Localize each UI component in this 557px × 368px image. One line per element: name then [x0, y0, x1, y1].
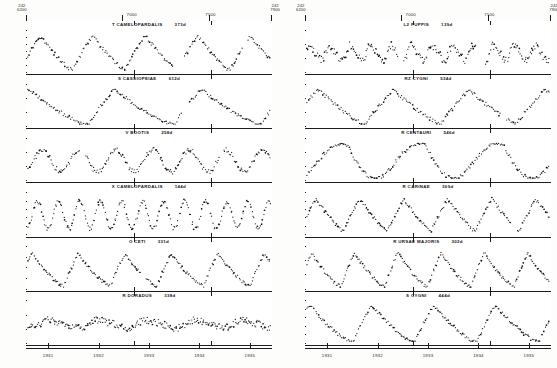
star-period: 309d	[442, 184, 453, 189]
panel-star-label: R DORADUS338d	[122, 293, 175, 298]
vertical-grid-tick-top	[490, 75, 491, 79]
vertical-grid-tick-top	[413, 238, 414, 242]
vertical-grid-tick-bottom	[134, 70, 135, 74]
vertical-grid-tick-bottom	[490, 178, 491, 182]
vertical-grid-tick-top	[211, 292, 212, 296]
scatter-plot-area	[305, 183, 551, 237]
jd-start-label-right: 242 6200	[296, 4, 306, 13]
vertical-grid-tick-bottom	[490, 233, 491, 237]
vertical-grid-tick-bottom	[134, 287, 135, 291]
light-curve-panel-t-camelopardalis: T CAMELOPARDALIS373d78910111213	[26, 21, 272, 75]
scatter-plot-area	[305, 292, 551, 346]
y-axis-tick-mark	[26, 51, 27, 52]
star-period: 331d	[158, 239, 169, 244]
year-tick-label: 1934	[473, 353, 484, 358]
star-period: 302d	[451, 239, 462, 244]
top-tick-label-7000-right: 7000	[406, 12, 416, 17]
star-period: 144d	[175, 184, 186, 189]
y-axis-tick-mark	[305, 30, 306, 31]
vertical-grid-tick-top	[134, 292, 135, 296]
light-curve-panel-r-carinae: R CARINAE309d456789	[305, 183, 551, 237]
vertical-grid-tick-top	[211, 183, 212, 187]
light-curve-panel-v-bootis: V BOOTIS258d78910	[26, 129, 272, 183]
bottom-axis-tick-mark	[149, 343, 150, 349]
light-curve-panel-r-centauri: R CENTAURI546d57911	[305, 129, 551, 183]
vertical-grid-tick-top	[134, 75, 135, 79]
top-tick-label-7000-left: 7000	[127, 12, 137, 17]
scatter-plot-area	[26, 21, 272, 75]
y-axis-tick-mark	[26, 329, 27, 330]
vertical-grid-tick-bottom	[134, 233, 135, 237]
scatter-plot-area	[26, 183, 272, 237]
vertical-grid-tick-top	[490, 21, 491, 25]
y-axis-tick-mark	[26, 289, 27, 290]
y-axis-tick-mark	[26, 72, 27, 73]
star-period: 338d	[164, 293, 175, 298]
star-name: S CYGNI	[406, 293, 427, 298]
y-axis-tick-mark	[305, 260, 306, 261]
scatter-plot-area	[26, 75, 272, 129]
panel-star-label: X CAMELOPARDALIS144d	[112, 184, 186, 189]
bottom-axis-right: 19311932193319341935	[305, 348, 551, 364]
y-axis-tick-mark	[26, 37, 27, 38]
y-axis-tick-mark	[26, 246, 27, 247]
vertical-grid-tick-bottom	[413, 287, 414, 291]
vertical-grid-tick-top	[490, 129, 491, 133]
year-tick-label: 1932	[93, 353, 104, 358]
vertical-grid-tick-bottom	[134, 341, 135, 345]
y-axis-tick-mark	[305, 152, 306, 153]
bottom-axis-tick-mark	[48, 343, 49, 349]
y-axis-tick-mark	[26, 217, 27, 218]
vertical-grid-tick-bottom	[211, 70, 212, 74]
star-name: L2 PUPPIS	[403, 22, 429, 27]
y-axis-tick-mark	[305, 84, 306, 85]
y-axis-tick-mark	[305, 334, 306, 335]
y-axis-tick-mark	[26, 65, 27, 66]
y-axis-tick-mark	[26, 166, 27, 167]
y-axis-tick-mark	[26, 278, 27, 279]
bottom-axis-tick-mark	[250, 343, 251, 349]
star-name: V BOOTIS	[125, 130, 149, 135]
light-curve-panel-l2-puppis: L2 PUPPIS139d3456	[305, 21, 551, 75]
y-axis-tick-mark	[305, 300, 306, 301]
light-curve-panel-s-cygni: S CYGNI444d91011121314	[305, 292, 551, 346]
bottom-axis-tick-mark	[99, 343, 100, 349]
y-axis-tick-mark	[305, 44, 306, 45]
jd-start-value-left: 6200	[17, 7, 27, 12]
panel-star-label: R CENTAURI546d	[401, 130, 455, 135]
bottom-axis-tick-mark	[529, 343, 530, 349]
scatter-plot-area	[26, 129, 272, 183]
vertical-grid-tick-top	[134, 129, 135, 133]
vertical-grid-tick-bottom	[490, 124, 491, 128]
vertical-grid-tick-top	[211, 75, 212, 79]
vertical-grid-tick-top	[413, 21, 414, 25]
star-period: 546d	[443, 130, 454, 135]
panel-star-label: R CARINAE309d	[403, 184, 454, 189]
y-axis-tick-mark	[26, 58, 27, 59]
vertical-grid-tick-bottom	[413, 70, 414, 74]
y-axis-tick-mark	[26, 343, 27, 344]
year-tick-label: 1931	[322, 353, 333, 358]
y-axis-tick-mark	[305, 317, 306, 318]
vertical-grid-tick-bottom	[211, 233, 212, 237]
y-axis-tick-mark	[26, 257, 27, 258]
year-tick-label: 1934	[194, 353, 205, 358]
vertical-grid-tick-top	[134, 183, 135, 187]
bottom-axis-tick-mark	[199, 343, 200, 349]
light-curve-panel-r-ursae-majoris: R URSAE MAJORIS302d681012	[305, 238, 551, 292]
y-axis-tick-mark	[26, 267, 27, 268]
year-tick-label: 1933	[423, 353, 434, 358]
y-axis-tick-mark	[305, 201, 306, 202]
y-axis-tick-mark	[26, 44, 27, 45]
y-axis-tick-mark	[26, 192, 27, 193]
scatter-plot-area	[305, 129, 551, 183]
year-tick-label: 1935	[245, 353, 256, 358]
year-tick-label: 1932	[372, 353, 383, 358]
y-axis-tick-mark	[305, 234, 306, 235]
scatter-plot-area	[305, 238, 551, 292]
y-axis-tick-mark	[305, 326, 306, 327]
top-tick-label-7500-right: 7500	[484, 12, 494, 17]
y-axis-tick-mark	[305, 343, 306, 344]
star-name: R CARINAE	[403, 184, 431, 189]
bottom-axis-tick-mark	[378, 343, 379, 349]
